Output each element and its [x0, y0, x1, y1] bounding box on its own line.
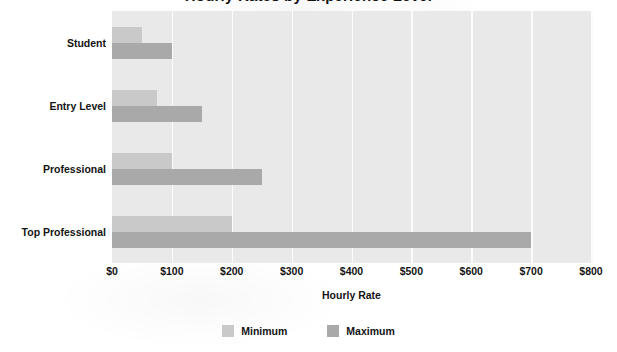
bar-group	[112, 11, 591, 74]
bar-group	[112, 137, 591, 200]
x-tick-label: $800	[579, 265, 602, 277]
x-tick-label: $300	[280, 265, 303, 277]
legend-item[interactable]: Minimum	[222, 325, 287, 337]
bar-minimum	[112, 27, 142, 43]
bar-maximum	[112, 169, 262, 185]
chart-title: Hourly Rates by Experience Level	[0, 0, 617, 4]
legend-swatch-icon	[222, 325, 234, 337]
y-tick-label: Student	[67, 37, 106, 49]
bar-minimum	[112, 153, 172, 169]
x-tick-label: $500	[400, 265, 423, 277]
x-tick-label: $600	[460, 265, 483, 277]
y-axis: StudentEntry LevelProfessionalTop Profes…	[0, 11, 106, 263]
legend-label: Minimum	[241, 325, 287, 337]
x-tick-label: $200	[220, 265, 243, 277]
bar-minimum	[112, 216, 232, 232]
x-axis: $0$100$200$300$400$500$600$700$800	[112, 265, 591, 281]
bar-maximum	[112, 43, 172, 59]
bar-maximum	[112, 106, 202, 122]
x-tick-label: $100	[160, 265, 183, 277]
plot-area	[112, 11, 591, 263]
bar-group	[112, 74, 591, 137]
bar-group	[112, 200, 591, 263]
chart-legend: MinimumMaximum	[0, 325, 617, 337]
bar-maximum	[112, 232, 531, 248]
y-tick-label: Professional	[43, 163, 106, 175]
legend-label: Maximum	[346, 325, 394, 337]
x-axis-title: Hourly Rate	[112, 289, 591, 301]
x-tick-label: $400	[340, 265, 363, 277]
bar-groups	[112, 11, 591, 263]
x-tick-label: $700	[519, 265, 542, 277]
legend-swatch-icon	[327, 325, 339, 337]
x-tick-label: $0	[106, 265, 118, 277]
legend-item[interactable]: Maximum	[327, 325, 394, 337]
y-tick-label: Top Professional	[22, 226, 106, 238]
gridline	[591, 11, 593, 263]
bar-chart: Hourly Rates by Experience Level Student…	[0, 0, 617, 352]
y-tick-label: Entry Level	[49, 100, 106, 112]
bar-minimum	[112, 90, 157, 106]
